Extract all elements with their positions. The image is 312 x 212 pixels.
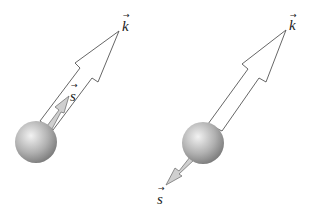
k-momentum-arrow-right	[208, 30, 286, 131]
k-label-left: → k	[122, 11, 130, 34]
s-spin-arrow-right	[166, 157, 194, 185]
svg-text:k: k	[289, 17, 296, 33]
particle-sphere-right	[182, 122, 224, 164]
s-label-right: → s	[157, 184, 165, 207]
k-label-right: → k	[289, 11, 297, 33]
right-diagram: → k → s	[157, 11, 297, 207]
k-momentum-arrow-left	[40, 31, 119, 130]
particle-sphere-left	[15, 121, 57, 163]
svg-text:k: k	[122, 18, 129, 34]
left-diagram: → k → s	[15, 11, 130, 163]
svg-text:s: s	[157, 191, 163, 207]
diagram-canvas: → k → s → k → s	[0, 0, 312, 212]
svg-text:s: s	[70, 88, 76, 104]
